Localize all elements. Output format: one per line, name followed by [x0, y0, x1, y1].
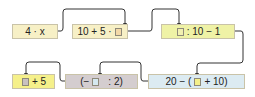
placeholder-square — [115, 28, 122, 36]
box-text: : 10 − 1 — [186, 25, 222, 38]
box-minus-divide-2: (− : 2) — [65, 74, 138, 89]
placeholder-square — [92, 78, 99, 86]
box-text: + 5 — [31, 75, 47, 88]
box-text-pre: 20 − ( — [165, 75, 193, 88]
box-text-post: : 2) — [107, 75, 123, 88]
box-10-plus-5-times: 10 + 5 · — [72, 24, 128, 39]
box-plus-5: + 5 — [12, 74, 55, 89]
box-text: 4 · x — [24, 25, 45, 38]
box-20-minus-plus-10: 20 − ( + 10) — [148, 74, 245, 89]
placeholder-square — [194, 78, 201, 86]
box-text-pre: (− — [79, 75, 90, 88]
placeholder-square — [177, 28, 184, 36]
box-4x: 4 · x — [12, 24, 58, 39]
box-text: 10 + 5 · — [76, 25, 112, 38]
box-divide-10-minus-1: : 10 − 1 — [161, 24, 235, 39]
box-text-post: + 10) — [203, 75, 228, 88]
placeholder-square — [22, 78, 29, 86]
